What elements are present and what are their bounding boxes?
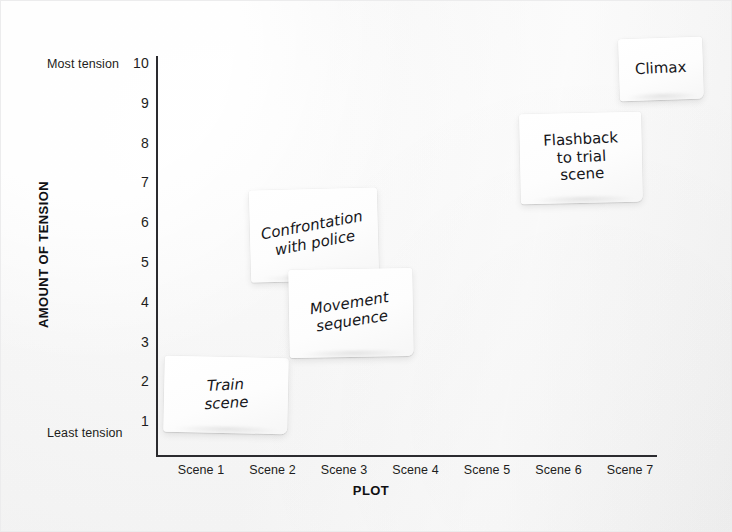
y-tick-1: 1	[115, 414, 149, 428]
sticky-note-movement-sequence[interactable]: Movement sequence	[288, 268, 414, 358]
x-tick-scene-1: Scene 1	[161, 463, 241, 477]
sticky-note-flashback-to-trial-scene[interactable]: Flashback to trial scene	[519, 112, 643, 205]
y-tick-6: 6	[115, 215, 149, 229]
y-tick-3: 3	[115, 335, 149, 349]
sticky-note-label: Climax	[629, 57, 693, 82]
sticky-note-label: Flashback to trial scene	[536, 127, 626, 188]
sticky-note-label: Confrontation with police	[254, 205, 374, 265]
y-tick-8: 8	[115, 136, 149, 150]
y-tick-4: 4	[115, 295, 149, 309]
y-tick-10: 10	[115, 56, 149, 70]
sticky-note-label: Train scene	[197, 374, 255, 417]
x-axis-line	[156, 455, 657, 457]
y-axis-title: AMOUNT OF TENSION	[36, 175, 51, 335]
x-tick-scene-7: Scene 7	[590, 463, 670, 477]
y-axis-ticks: 10987654321	[105, 1, 149, 471]
x-tick-scene-6: Scene 6	[519, 463, 599, 477]
x-tick-scene-3: Scene 3	[304, 463, 384, 477]
x-tick-scene-5: Scene 5	[447, 463, 527, 477]
y-tick-9: 9	[115, 96, 149, 110]
y-tick-2: 2	[115, 374, 149, 388]
sticky-note-train-scene[interactable]: Train scene	[163, 356, 289, 435]
sticky-note-climax[interactable]: Climax	[618, 37, 704, 102]
x-tick-scene-4: Scene 4	[376, 463, 456, 477]
y-axis-line	[156, 56, 158, 457]
y-tick-5: 5	[115, 255, 149, 269]
x-axis-title: PLOT	[311, 483, 431, 498]
tension-plot-canvas: Most tension Least tension AMOUNT OF TEN…	[0, 0, 732, 532]
x-tick-scene-2: Scene 2	[233, 463, 313, 477]
sticky-note-label: Movement sequence	[303, 286, 399, 339]
y-tick-7: 7	[115, 175, 149, 189]
